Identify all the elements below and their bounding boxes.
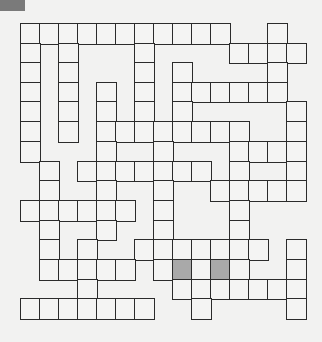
grid-cell[interactable] [153,200,174,222]
shaded-grid-cell[interactable] [210,259,231,281]
grid-cell[interactable] [229,279,250,300]
grid-cell[interactable] [172,239,193,261]
grid-cell[interactable] [20,298,41,320]
grid-cell[interactable] [134,298,155,320]
grid-cell[interactable] [267,141,288,163]
grid-cell[interactable] [286,239,307,261]
grid-cell[interactable] [286,121,307,143]
grid-cell[interactable] [58,298,79,320]
grid-cell[interactable] [172,82,193,103]
grid-cell[interactable] [153,161,174,182]
grid-cell[interactable] [134,82,155,103]
grid-cell[interactable] [267,82,288,103]
grid-cell[interactable] [229,259,250,281]
grid-cell[interactable] [39,180,60,202]
grid-cell[interactable] [172,101,193,123]
grid-cell[interactable] [96,101,117,123]
grid-cell[interactable] [248,239,269,261]
grid-cell[interactable] [58,82,79,103]
grid-cell[interactable] [153,220,174,241]
grid-cell[interactable] [20,82,41,103]
grid-cell[interactable] [39,200,60,222]
grid-cell[interactable] [286,161,307,182]
grid-cell[interactable] [134,161,155,182]
grid-cell[interactable] [153,239,174,261]
grid-cell[interactable] [191,298,212,320]
grid-cell[interactable] [77,23,98,45]
grid-cell[interactable] [115,200,136,222]
grid-cell[interactable] [172,161,193,182]
grid-cell[interactable] [58,23,79,45]
grid-cell[interactable] [58,200,79,222]
grid-cell[interactable] [20,101,41,123]
grid-cell[interactable] [96,298,117,320]
grid-cell[interactable] [115,259,136,281]
grid-cell[interactable] [96,180,117,202]
grid-cell[interactable] [96,23,117,45]
grid-cell[interactable] [172,121,193,143]
grid-cell[interactable] [229,200,250,222]
grid-cell[interactable] [77,279,98,300]
grid-cell[interactable] [20,23,41,45]
grid-cell[interactable] [20,43,41,64]
grid-cell[interactable] [172,23,193,45]
grid-cell[interactable] [286,298,307,320]
grid-cell[interactable] [96,82,117,103]
grid-cell[interactable] [210,180,231,202]
grid-cell[interactable] [153,141,174,163]
grid-cell[interactable] [248,180,269,202]
grid-cell[interactable] [20,141,41,163]
grid-cell[interactable] [286,279,307,300]
grid-cell[interactable] [77,259,98,281]
grid-cell[interactable] [39,220,60,241]
grid-cell[interactable] [229,161,250,182]
grid-cell[interactable] [286,43,307,64]
grid-cell[interactable] [248,82,269,103]
grid-cell[interactable] [286,141,307,163]
grid-cell[interactable] [210,239,231,261]
grid-cell[interactable] [286,101,307,123]
grid-cell[interactable] [39,239,60,261]
grid-cell[interactable] [115,298,136,320]
grid-cell[interactable] [77,239,98,261]
grid-cell[interactable] [229,180,250,202]
grid-cell[interactable] [153,180,174,202]
shaded-grid-cell[interactable] [172,259,193,281]
grid-cell[interactable] [153,259,174,281]
grid-cell[interactable] [172,62,193,84]
grid-cell[interactable] [286,259,307,281]
grid-cell[interactable] [229,239,250,261]
grid-cell[interactable] [210,121,231,143]
grid-cell[interactable] [77,161,98,182]
grid-cell[interactable] [20,62,41,84]
grid-cell[interactable] [172,279,193,300]
grid-cell[interactable] [115,161,136,182]
grid-cell[interactable] [20,121,41,143]
grid-cell[interactable] [39,259,60,281]
grid-cell[interactable] [96,220,117,241]
grid-cell[interactable] [267,62,288,84]
grid-cell[interactable] [58,259,79,281]
grid-cell[interactable] [39,23,60,45]
grid-cell[interactable] [96,141,117,163]
grid-cell[interactable] [20,200,41,222]
grid-cell[interactable] [191,279,212,300]
grid-cell[interactable] [134,239,155,261]
grid-cell[interactable] [248,141,269,163]
grid-cell[interactable] [96,259,117,281]
grid-cell[interactable] [96,161,117,182]
grid-cell[interactable] [134,62,155,84]
grid-cell[interactable] [58,121,79,143]
grid-cell[interactable] [115,121,136,143]
grid-cell[interactable] [39,161,60,182]
grid-cell[interactable] [58,101,79,123]
grid-cell[interactable] [248,279,269,300]
grid-cell[interactable] [77,298,98,320]
grid-cell[interactable] [134,23,155,45]
grid-cell[interactable] [210,82,231,103]
grid-cell[interactable] [229,121,250,143]
grid-cell[interactable] [39,298,60,320]
grid-cell[interactable] [267,23,288,45]
grid-cell[interactable] [191,82,212,103]
grid-cell[interactable] [191,239,212,261]
